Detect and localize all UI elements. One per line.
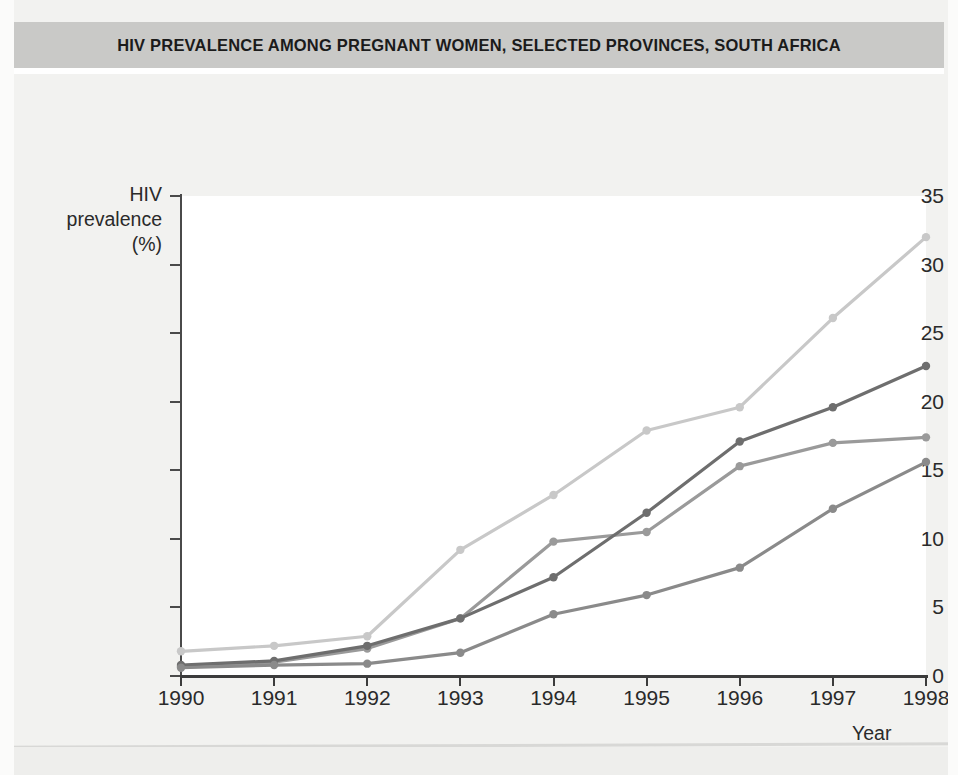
series-line [181,237,926,651]
data-point [736,462,744,470]
data-point [270,642,278,650]
series-line [181,437,926,666]
data-point [922,433,930,441]
data-point [642,591,650,599]
data-point [456,546,464,554]
data-point [736,563,744,571]
page-gutter-right [948,0,958,775]
data-point [270,661,278,669]
data-point [177,647,185,655]
data-point [177,664,185,672]
data-point [549,537,557,545]
data-point [642,528,650,536]
data-point [642,426,650,434]
data-point [922,458,930,466]
page-gutter-left [0,0,14,775]
data-point [549,491,557,499]
data-point [549,610,557,618]
data-point [922,362,930,370]
data-point [922,233,930,241]
data-point [363,632,371,640]
page-title: HIV PREVALENCE AMONG PREGNANT WOMEN, SEL… [117,36,841,55]
data-point [363,642,371,650]
data-point [736,437,744,445]
data-point [642,509,650,517]
data-point [363,659,371,667]
series-line [181,366,926,665]
data-point [456,614,464,622]
footer-band [0,747,958,775]
data-point [829,504,837,512]
data-point [829,403,837,411]
data-point [549,573,557,581]
chart-title-bar: HIV PREVALENCE AMONG PREGNANT WOMEN, SEL… [14,22,944,68]
data-point [456,648,464,656]
figure-page: HIV PREVALENCE AMONG PREGNANT WOMEN, SEL… [0,0,958,775]
data-point [829,314,837,322]
data-series-layer [14,74,944,734]
data-point [736,403,744,411]
chart-area: HIV prevalence (%) 05101520253035 199019… [14,74,944,734]
data-point [829,439,837,447]
